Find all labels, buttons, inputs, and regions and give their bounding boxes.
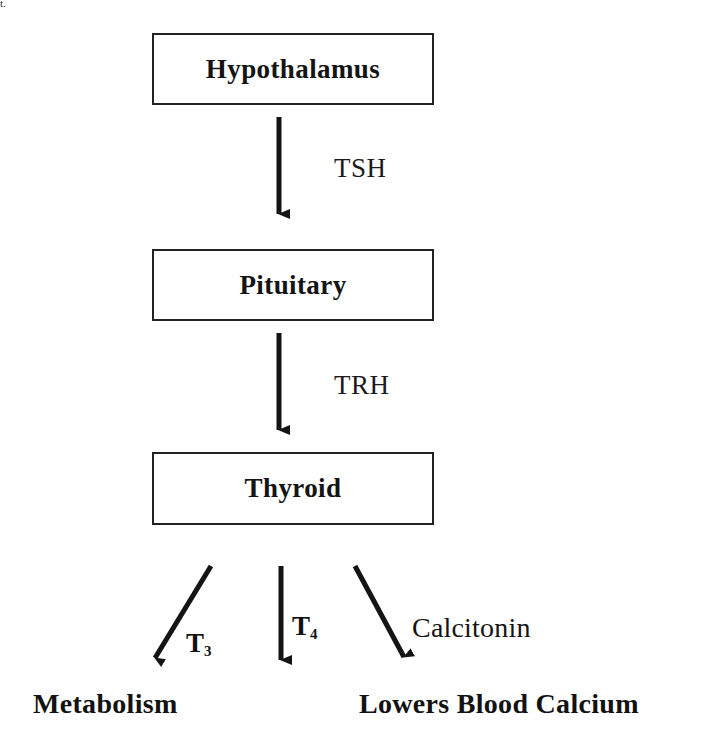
hormone-label-t3: T3 (186, 628, 212, 659)
node-hypothalamus-label: Hypothalamus (206, 54, 380, 85)
outcome-label-metabolism: Metabolism (33, 688, 178, 720)
hormone-t4-subscript: 4 (310, 626, 318, 642)
node-pituitary-label: Pituitary (239, 270, 346, 301)
node-thyroid-label: Thyroid (245, 473, 342, 504)
node-thyroid: Thyroid (152, 452, 434, 525)
arrow-thyroid-to-lowers-blood-calcium (355, 566, 404, 657)
edge-label-tsh: TSH (334, 153, 387, 184)
node-hypothalamus: Hypothalamus (152, 33, 434, 105)
hormone-t4-base: T (292, 611, 310, 641)
hormone-t3-base: T (186, 628, 204, 658)
thyroid-regulation-flowchart: t. Hypothalamus Pituitary Thyroid TSH TR… (0, 0, 706, 747)
hormone-label-t4: T4 (292, 611, 318, 642)
node-pituitary: Pituitary (152, 249, 434, 321)
outcome-label-lowers-blood-calcium: Lowers Blood Calcium (359, 688, 639, 720)
edge-label-trh: TRH (334, 370, 390, 401)
hormone-t3-subscript: 3 (204, 643, 212, 659)
hormone-label-calcitonin: Calcitonin (412, 612, 531, 644)
